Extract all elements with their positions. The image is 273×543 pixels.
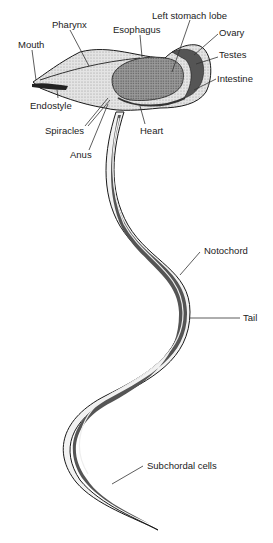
label-endostyle: Endostyle [30,101,72,111]
label-tail: Tail [243,313,257,323]
label-spiracles: Spiracles [45,126,84,136]
label-intestine: Intestine [217,74,253,84]
label-left-stomach-lobe: Left stomach lobe [152,11,227,21]
label-pharynx: Pharynx [52,20,87,30]
label-heart: Heart [140,126,163,136]
label-anus: Anus [70,150,92,160]
label-subchordal-cells: Subchordal cells [147,461,217,471]
label-ovary: Ovary [219,28,244,38]
label-mouth: Mouth [18,40,44,50]
label-esophagus: Esophagus [113,25,161,35]
label-testes: Testes [219,50,246,60]
label-notochord: Notochord [204,246,248,256]
